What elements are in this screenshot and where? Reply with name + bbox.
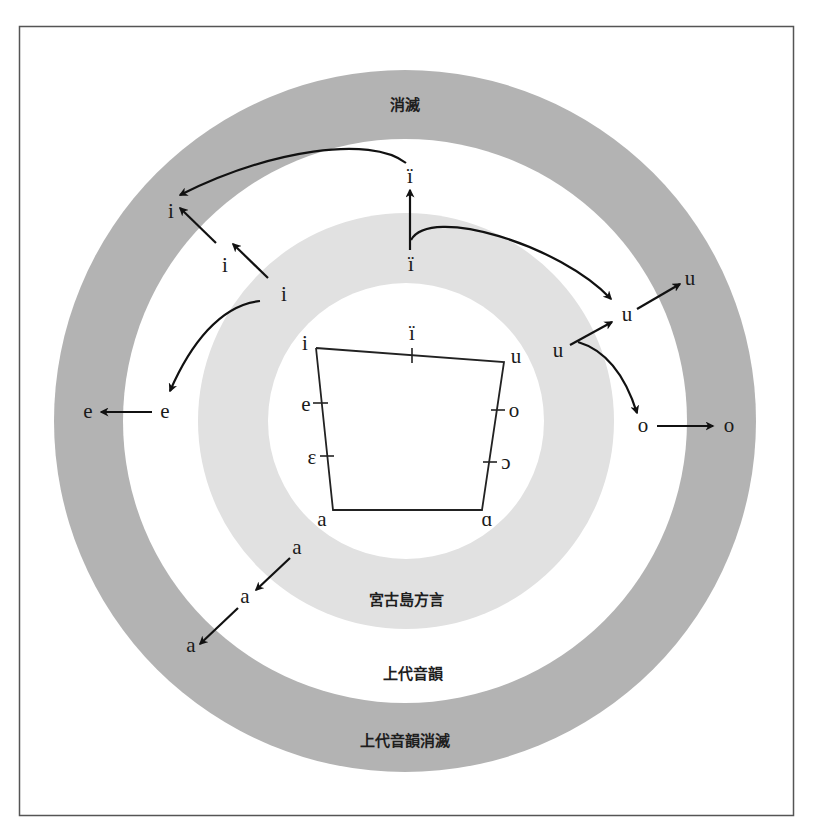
- node-a-outer: a: [186, 633, 196, 657]
- node-i-middle: i: [222, 253, 228, 277]
- node-i-outer: i: [168, 199, 174, 223]
- node-u-inner: u: [553, 338, 564, 362]
- node-e-outer: e: [83, 399, 92, 423]
- chart-vowel-a: a: [317, 507, 327, 531]
- node-ii-inner: ï: [407, 252, 414, 276]
- chart-vowel-back-a: ɑ: [482, 507, 493, 531]
- chart-vowel-e: e: [301, 392, 310, 416]
- core-vowel-area: [268, 283, 544, 559]
- label-miyako-dialect: 宮古島方言: [369, 591, 444, 609]
- chart-vowel-u: u: [511, 344, 522, 368]
- label-extinction-top: 消滅: [390, 96, 420, 114]
- chart-vowel-ii: ï: [408, 321, 415, 345]
- node-u-outer: u: [685, 266, 696, 290]
- chart-vowel-o: o: [509, 398, 520, 422]
- node-a-middle: a: [240, 584, 250, 608]
- node-e-middle: e: [160, 399, 169, 423]
- node-o-outer: o: [724, 413, 735, 437]
- node-o-middle: o: [638, 413, 649, 437]
- node-ii-outer: ï: [406, 164, 413, 188]
- node-u-middle: u: [622, 302, 633, 326]
- chart-vowel-open-e: ɛ: [308, 445, 317, 469]
- node-a-inner: a: [292, 535, 302, 559]
- label-old-japanese: 上代音韻: [383, 665, 444, 683]
- vowel-shift-diagram: 消滅 宮古島方言 上代音韻 上代音韻消滅 i ï u e ɛ o ɔ a ɑ i…: [0, 0, 813, 832]
- chart-vowel-i: i: [302, 331, 308, 355]
- node-i-inner: i: [281, 282, 287, 306]
- label-old-japanese-extinction: 上代音韻消滅: [360, 732, 450, 750]
- chart-vowel-open-o: ɔ: [501, 450, 510, 474]
